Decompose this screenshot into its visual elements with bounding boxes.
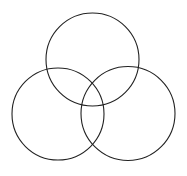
venn-circle-right (81, 67, 175, 161)
venn-diagram-svg (0, 0, 187, 176)
venn-circle-left (12, 68, 104, 160)
venn-diagram (0, 0, 187, 176)
venn-circle-top (46, 13, 139, 106)
